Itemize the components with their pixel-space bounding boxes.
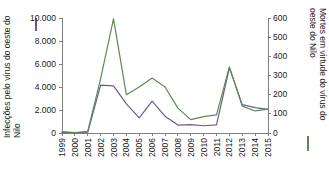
plot-area xyxy=(0,0,329,189)
west-nile-virus-chart: Infecções pelo vírus do oeste do Nilo Mo… xyxy=(0,0,329,189)
series-line-infections xyxy=(62,68,268,133)
series-lines xyxy=(62,19,268,133)
